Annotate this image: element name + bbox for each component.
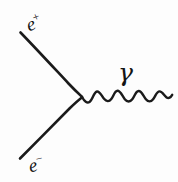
photon-label: γ (118, 60, 133, 85)
photon-wave-line (82, 91, 172, 103)
feynman-diagram-figure: e+ e− γ (0, 0, 178, 182)
positron-line (21, 33, 82, 97)
electron-line (20, 97, 82, 158)
